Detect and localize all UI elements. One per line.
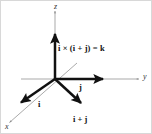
vector-i-plus-j-label: i + j bbox=[73, 115, 87, 124]
vector-j-label: j bbox=[79, 83, 82, 92]
x-axis-line bbox=[10, 63, 78, 123]
vector-i-label: i bbox=[38, 100, 40, 109]
z-axis-label: z bbox=[54, 3, 57, 11]
x-axis-label: x bbox=[5, 123, 9, 131]
vector-i-plus-j bbox=[55, 79, 81, 103]
vector-diagram-figure: z y x i × (i + j) = k j i i + j bbox=[0, 0, 152, 134]
axis-lines bbox=[10, 11, 140, 123]
cross-product-equation-label: i × (i + j) = k bbox=[58, 44, 105, 53]
y-axis-label: y bbox=[143, 73, 147, 81]
